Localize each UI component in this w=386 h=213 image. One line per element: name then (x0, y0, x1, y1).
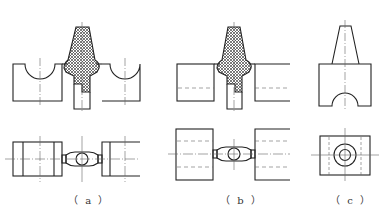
left-block-top (176, 129, 213, 180)
engineering-drawing (0, 0, 386, 213)
panel-label-a: （ a ） (68, 192, 110, 207)
left-die-block (177, 64, 214, 101)
right-die-block (102, 64, 140, 101)
left-die-block (13, 64, 62, 101)
panel-a-front-view (13, 22, 140, 112)
panel-label-b: （ b ） (220, 192, 263, 207)
panel-b-top-view (168, 129, 290, 180)
panel-c-top-view (311, 128, 379, 181)
tapered-boss (332, 26, 359, 64)
panel-label-c: （ c ） (330, 192, 372, 207)
panel-c-front-view (319, 20, 371, 110)
panel-a-top-view (5, 136, 140, 182)
right-block-top (255, 129, 290, 180)
panel-b-front-view (177, 22, 290, 112)
right-die-block (255, 64, 290, 101)
hatched-punch (64, 27, 99, 92)
